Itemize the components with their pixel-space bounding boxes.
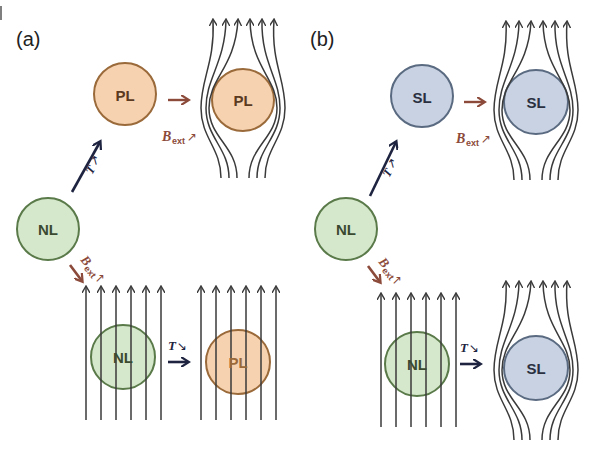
- svg-text:PL: PL: [233, 92, 252, 109]
- node-a-upper-final-pl: PL: [201, 20, 285, 178]
- svg-text:B: B: [455, 131, 465, 146]
- node-b-upper-sl: SL: [391, 65, 453, 127]
- node-a-lower-final-pl: PL: [201, 287, 276, 420]
- svg-text:PL: PL: [115, 87, 134, 104]
- svg-text:SL: SL: [412, 89, 431, 106]
- svg-text:↘: ↘: [469, 341, 479, 355]
- panel-b: (b) NL T ↗ SL B ext ↗ SL: [310, 22, 578, 440]
- panel-label-b: (b): [310, 28, 334, 50]
- label-b-bext-upper: B ext ↗: [455, 131, 491, 148]
- arrow-a-field-down: B ext ↗: [70, 252, 105, 285]
- svg-text:NL: NL: [407, 356, 427, 373]
- label-a-T-up: T ↗: [82, 152, 105, 176]
- svg-text:SL: SL: [526, 360, 545, 377]
- node-a-upper-pl: PL: [94, 63, 156, 125]
- superconductivity-diagram: (a) NL T ↗ PL B ext ↗: [0, 0, 590, 460]
- svg-text:ext: ext: [466, 138, 479, 148]
- svg-text:↗: ↗: [95, 271, 105, 285]
- svg-text:T: T: [168, 338, 177, 353]
- arrow-b-cooling-right: T ↘: [460, 340, 480, 364]
- node-a-start-nl: NL: [17, 198, 79, 260]
- arrow-b-field-down: B ext ↗: [368, 254, 402, 287]
- svg-text:NL: NL: [38, 221, 58, 238]
- svg-text:T: T: [460, 340, 469, 355]
- node-b-start-nl: NL: [315, 198, 377, 260]
- label-b-T-up: T ↗: [379, 155, 402, 179]
- svg-text:ext: ext: [172, 136, 185, 146]
- svg-text:PL: PL: [228, 354, 247, 371]
- panel-label-a: (a): [16, 28, 40, 50]
- label-a-bext-upper: B ext ↗: [161, 129, 197, 146]
- svg-text:↘: ↘: [177, 339, 187, 353]
- panel-a: (a) NL T ↗ PL B ext ↗: [16, 20, 285, 420]
- arrow-a-cooling-up: T ↗: [72, 142, 104, 192]
- node-b-upper-final-sl: SL: [494, 22, 578, 180]
- arrow-b-cooling-up: T ↗: [370, 142, 401, 196]
- node-a-lower-nl: NL: [86, 287, 161, 420]
- svg-text:SL: SL: [526, 94, 545, 111]
- arrow-a-cooling-right: T ↘: [168, 338, 188, 362]
- node-b-lower-final-sl: SL: [494, 282, 578, 440]
- svg-text:NL: NL: [113, 349, 133, 366]
- svg-text:NL: NL: [336, 221, 356, 238]
- svg-text:↗: ↗: [392, 273, 402, 287]
- svg-text:↗: ↗: [481, 132, 491, 146]
- svg-text:B: B: [161, 129, 171, 144]
- svg-text:↗: ↗: [187, 130, 197, 144]
- node-b-lower-nl: NL: [381, 294, 456, 427]
